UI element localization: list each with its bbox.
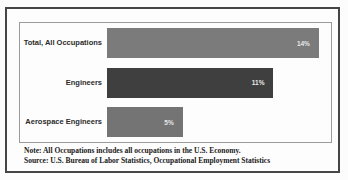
chart-note: Note: All Occupations includes all occup…: [24, 146, 324, 156]
bar-row: Total, All Occupations 14%: [20, 24, 331, 64]
value-label: 14%: [297, 40, 319, 47]
bar-track: 5%: [107, 107, 331, 137]
bar-track: 14%: [107, 28, 331, 58]
chart-source: Source: U.S. Bureau of Labor Statistics,…: [24, 156, 324, 166]
bar: 5%: [107, 107, 183, 137]
category-label: Aerospace Engineers: [20, 118, 107, 126]
bar-rows: Total, All Occupations 14% Engineers 11%…: [20, 23, 331, 142]
bar-chart-plot: Total, All Occupations 14% Engineers 11%…: [19, 22, 332, 143]
bar-row: Engineers 11%: [20, 63, 331, 103]
value-label: 5%: [164, 119, 182, 126]
bar: 14%: [107, 28, 319, 58]
value-label: 11%: [252, 79, 274, 86]
footnotes: Note: All Occupations includes all occup…: [24, 146, 324, 166]
bar-track: 11%: [107, 68, 331, 98]
category-label: Engineers: [20, 79, 107, 87]
figure-frame: Total, All Occupations 14% Engineers 11%…: [5, 7, 340, 173]
bar-row: Aerospace Engineers 5%: [20, 103, 331, 143]
bar: 11%: [107, 68, 273, 98]
category-label: Total, All Occupations: [20, 39, 107, 47]
